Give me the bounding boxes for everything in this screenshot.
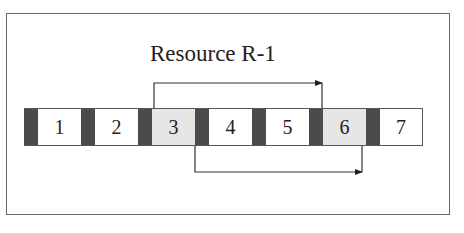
connector-arrows bbox=[0, 0, 464, 233]
bottom-arrow bbox=[195, 146, 362, 172]
top-arrow bbox=[154, 83, 322, 108]
